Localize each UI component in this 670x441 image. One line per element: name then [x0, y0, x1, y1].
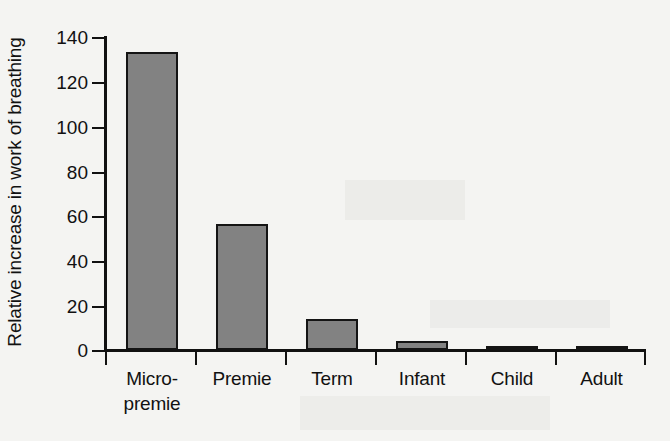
x-label-line: Adult: [557, 366, 646, 391]
x-label-line: Premie: [197, 366, 287, 391]
x-tick-mark: [375, 352, 377, 365]
y-tick-label: 140: [44, 28, 88, 47]
y-tick-label: 40: [44, 252, 88, 271]
y-tick-label: 60: [44, 207, 88, 226]
y-tick-label: 80: [44, 163, 88, 182]
x-tick-mark: [195, 352, 197, 365]
bar-cell: [377, 36, 467, 350]
y-tick-label: 0: [44, 341, 88, 360]
bar-premie[interactable]: [216, 224, 268, 350]
y-tick-label: 120: [44, 73, 88, 92]
x-label-premie: Premie: [197, 366, 287, 391]
bar-infant[interactable]: [396, 341, 448, 350]
y-axis-tick-labels: 140 120 100 80 60 40 20 0: [40, 0, 88, 441]
x-label-term: Term: [287, 366, 377, 391]
x-axis-category-labels: Micro- premie Premie Term Infant Child A…: [107, 366, 646, 436]
y-tick-label: 20: [44, 297, 88, 316]
x-tick-mark: [555, 352, 557, 365]
bar-micro-premie[interactable]: [126, 52, 178, 350]
x-tick-mark: [465, 352, 467, 365]
bar-cell: [467, 36, 557, 350]
bar-child[interactable]: [486, 346, 538, 350]
bar-chart-figure: Relative increase in work of breathing 1…: [0, 0, 670, 441]
y-tick-label: 100: [44, 118, 88, 137]
x-label-line: Infant: [377, 366, 467, 391]
bar-cell: [557, 36, 646, 350]
x-tick-mark: [644, 352, 646, 365]
x-label-infant: Infant: [377, 366, 467, 391]
y-axis-title: Relative increase in work of breathing: [2, 12, 28, 372]
x-label-line: premie: [107, 391, 197, 416]
bar-term[interactable]: [306, 319, 358, 350]
bar-cell: [107, 36, 197, 350]
bar-cell: [197, 36, 287, 350]
x-label-line: Term: [287, 366, 377, 391]
x-label-micro-premie: Micro- premie: [107, 366, 197, 416]
x-label-child: Child: [467, 366, 557, 391]
x-tick-mark: [105, 352, 107, 365]
bar-cell: [287, 36, 377, 350]
plot-area: [107, 36, 646, 350]
x-label-adult: Adult: [557, 366, 646, 391]
x-label-line: Child: [467, 366, 557, 391]
x-tick-mark: [285, 352, 287, 365]
bar-adult[interactable]: [576, 346, 628, 350]
x-label-line: Micro-: [107, 366, 197, 391]
